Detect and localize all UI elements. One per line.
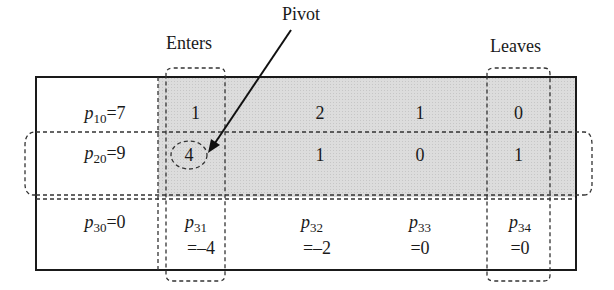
row1-col4: 0 xyxy=(487,103,550,123)
shaded-constraint-area xyxy=(158,77,576,197)
row3-lhs-eq: = xyxy=(106,212,116,232)
pivot-value: 4 xyxy=(169,145,209,165)
row1-col3: 1 xyxy=(400,103,440,123)
row1-lhs-eq: = xyxy=(106,103,116,123)
row3-col4-sub: 34 xyxy=(518,220,531,235)
row3-col2-sub: 32 xyxy=(310,220,323,235)
row1-lhs: p10=7 xyxy=(60,103,150,129)
row3-col4-var: p xyxy=(509,212,518,232)
row3-col1-val: =–4 xyxy=(180,238,222,258)
row2-lhs-eq: = xyxy=(106,143,116,163)
row3-lhs-sub: 30 xyxy=(93,220,106,235)
row1-lhs-val: 7 xyxy=(117,103,126,123)
row1-col2: 2 xyxy=(300,103,340,123)
row3-col3-var: p xyxy=(409,212,418,232)
row3-col2: p32 =–2 xyxy=(286,212,338,258)
leaves-label: Leaves xyxy=(490,36,541,57)
row2-col4: 1 xyxy=(487,145,550,165)
row3-col4-val: =0 xyxy=(494,238,546,258)
row3-col3-sub: 33 xyxy=(418,220,431,235)
row3-lhs-val: 0 xyxy=(117,212,126,232)
row2-col2: 1 xyxy=(300,145,340,165)
row3-lhs: p30=0 xyxy=(60,212,150,238)
row2-lhs: p20=9 xyxy=(60,143,150,169)
row2-col3: 0 xyxy=(400,145,440,165)
row1-lhs-sub: 10 xyxy=(93,111,106,126)
row3-col4: p34 =0 xyxy=(494,212,546,258)
row1-col1: 1 xyxy=(166,103,225,123)
row3-col1-var: p xyxy=(185,212,194,232)
enters-label: Enters xyxy=(166,33,212,54)
row3-col3-val: =0 xyxy=(394,238,446,258)
row2-lhs-val: 9 xyxy=(117,143,126,163)
row3-col2-val: =–2 xyxy=(296,238,338,258)
row3-col1-sub: 31 xyxy=(194,220,207,235)
row3-col1: p31 =–4 xyxy=(170,212,222,258)
row2-lhs-sub: 20 xyxy=(93,151,106,166)
row3-col2-var: p xyxy=(301,212,310,232)
pivot-label: Pivot xyxy=(282,4,320,25)
row3-col3: p33 =0 xyxy=(394,212,446,258)
